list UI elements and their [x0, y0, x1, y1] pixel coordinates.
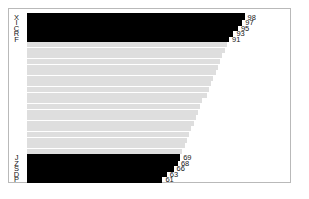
chart-frame: X98I97C95R93F91J69Z68S66D63P61 — [8, 8, 291, 183]
bar — [27, 176, 162, 183]
bar-chart: X98I97C95R93F91J69Z68S66D63P61 — [0, 0, 309, 199]
plot-area: X98I97C95R93F91J69Z68S66D63P61 — [9, 9, 290, 182]
bar-row: P61 — [9, 175, 290, 184]
bar-value-label: 61 — [165, 175, 173, 184]
bar-category-label: P — [9, 175, 24, 184]
